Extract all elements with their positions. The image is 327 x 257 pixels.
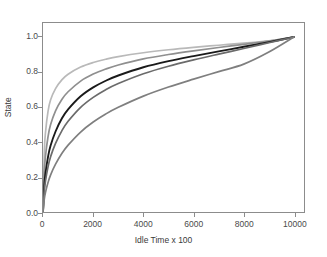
chart-figure: 0.00.20.40.60.81.0 020004000600080001000…: [0, 0, 327, 257]
x-tick-label: 0: [40, 220, 45, 229]
y-tick-label: 0.4: [26, 138, 38, 147]
x-tick-label: 10000: [283, 220, 307, 229]
x-tick-mark: [93, 213, 94, 217]
x-tick-mark: [295, 213, 296, 217]
y-tick-mark: [38, 178, 42, 179]
y-axis-title: State: [4, 77, 13, 137]
x-tick-label: 2000: [83, 220, 102, 229]
y-tick-label: 0.2: [26, 173, 38, 182]
x-tick-mark: [42, 213, 43, 217]
curve-canvas: [43, 23, 304, 212]
y-tick-label: 0.6: [26, 102, 38, 111]
x-tick-label: 8000: [235, 220, 254, 229]
series-line: [43, 37, 294, 212]
y-tick-mark: [38, 142, 42, 143]
x-tick-mark: [244, 213, 245, 217]
series-line: [43, 37, 294, 212]
series-line: [43, 37, 294, 212]
series-line: [43, 37, 294, 212]
x-tick-label: 6000: [184, 220, 203, 229]
y-tick-mark: [38, 107, 42, 108]
y-tick-label: 0.0: [26, 209, 38, 218]
x-tick-mark: [194, 213, 195, 217]
y-tick-label: 1.0: [26, 32, 38, 41]
series-line: [43, 37, 294, 212]
x-axis-title: Idle Time x 100: [0, 236, 327, 245]
y-tick-mark: [38, 36, 42, 37]
y-tick-mark: [38, 72, 42, 73]
x-tick-label: 4000: [134, 220, 153, 229]
plot-area: [42, 22, 305, 213]
x-tick-mark: [143, 213, 144, 217]
y-tick-label: 0.8: [26, 67, 38, 76]
